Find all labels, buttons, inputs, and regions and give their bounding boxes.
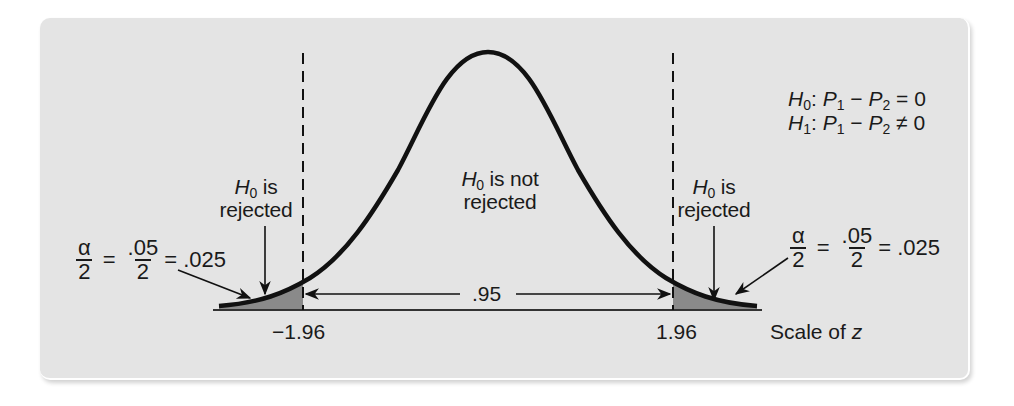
denominator: 2 bbox=[849, 247, 865, 271]
h-symbol: H bbox=[461, 167, 476, 190]
minus-sign: − bbox=[850, 87, 862, 110]
label-text: is bbox=[715, 175, 735, 198]
denominator: 2 bbox=[135, 259, 151, 283]
alternative-hypothesis: H1: P1 − P2 ≠ 0 bbox=[788, 111, 925, 135]
p2-subscript: 2 bbox=[882, 121, 890, 137]
label-text: rejected bbox=[677, 198, 750, 221]
relation: ≠ bbox=[896, 111, 908, 134]
left-alpha-formula: α2 = .052 = .025 bbox=[72, 237, 226, 283]
label-text: is bbox=[257, 175, 277, 198]
p2-symbol: P bbox=[868, 87, 882, 110]
result: = .025 bbox=[164, 247, 226, 273]
minus-sign: − bbox=[850, 111, 862, 134]
denominator: 2 bbox=[76, 259, 92, 283]
p1-symbol: P bbox=[823, 87, 837, 110]
h-symbol: H bbox=[235, 175, 250, 198]
p2-symbol: P bbox=[868, 111, 882, 134]
label-text: is not bbox=[484, 167, 539, 190]
result: = .025 bbox=[878, 235, 940, 261]
left-critical-value: −1.96 bbox=[272, 320, 325, 344]
equals: = bbox=[103, 247, 116, 273]
label-text: rejected bbox=[219, 198, 292, 221]
h1-symbol: H bbox=[788, 111, 803, 134]
value: 0 bbox=[914, 87, 926, 110]
numerator: α bbox=[790, 225, 807, 247]
null-hypothesis: H0: P1 − P2 = 0 bbox=[788, 87, 926, 111]
label-text: rejected bbox=[463, 190, 536, 213]
value: 0 bbox=[913, 111, 925, 134]
axis-label: Scale of z bbox=[770, 320, 862, 344]
h0-symbol: H bbox=[788, 87, 803, 110]
center-accept-label: H0 is not rejected bbox=[440, 167, 560, 213]
alpha-over-2: α2 bbox=[790, 225, 807, 271]
numerator: .05 bbox=[840, 225, 875, 247]
denominator: 2 bbox=[790, 247, 806, 271]
p1-subscript: 1 bbox=[837, 121, 845, 137]
axis-label-text: Scale of bbox=[770, 320, 852, 343]
left-reject-label: H0 is rejected bbox=[206, 175, 306, 221]
p1-symbol: P bbox=[823, 111, 837, 134]
equals: = bbox=[817, 235, 830, 261]
p-over-2: .052 bbox=[840, 225, 875, 271]
axis-variable: z bbox=[852, 320, 863, 343]
alpha-over-2: α2 bbox=[76, 237, 93, 283]
right-reject-label: H0 is rejected bbox=[664, 175, 764, 221]
numerator: α bbox=[76, 237, 93, 259]
right-alpha-formula: α2 = .052 = .025 bbox=[786, 225, 940, 271]
h-symbol: H bbox=[693, 175, 708, 198]
right-alpha-arrow bbox=[736, 258, 788, 294]
p-over-2: .052 bbox=[126, 237, 161, 283]
right-critical-value: 1.96 bbox=[656, 320, 697, 344]
h1-subscript: 1 bbox=[803, 121, 811, 137]
relation: = bbox=[896, 87, 908, 110]
numerator: .05 bbox=[126, 237, 161, 259]
center-area-label: .95 bbox=[472, 282, 501, 306]
